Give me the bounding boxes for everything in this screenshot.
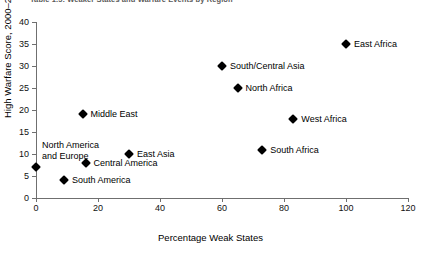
y-tick-mark bbox=[32, 88, 36, 89]
y-tick-label: 40 bbox=[19, 18, 29, 27]
x-tick-label: 100 bbox=[338, 204, 353, 213]
x-tick-mark bbox=[346, 198, 347, 202]
y-tick-label: 15 bbox=[19, 128, 29, 137]
data-point-marker bbox=[288, 114, 298, 124]
y-tick-mark bbox=[32, 132, 36, 133]
x-tick-label: 40 bbox=[155, 204, 165, 213]
data-point-label: South America bbox=[72, 175, 131, 186]
x-tick-mark bbox=[284, 198, 285, 202]
y-tick-mark bbox=[32, 110, 36, 111]
y-tick-mark bbox=[32, 176, 36, 177]
y-tick-mark bbox=[32, 44, 36, 45]
y-tick-label: 30 bbox=[19, 62, 29, 71]
x-axis-title: Percentage Weak States bbox=[0, 232, 421, 243]
data-point-marker bbox=[217, 61, 227, 71]
data-point-marker bbox=[257, 145, 267, 155]
data-point-marker bbox=[341, 39, 351, 49]
chart-figure: Table 1.5: Weaker States and Warfare Eve… bbox=[0, 0, 421, 253]
data-point-label: South/Central Asia bbox=[230, 61, 305, 72]
plot-area: 0510152025303540020406080100120 East Afr… bbox=[36, 22, 408, 198]
x-tick-mark bbox=[408, 198, 409, 202]
y-tick-mark bbox=[32, 22, 36, 23]
y-tick-label: 5 bbox=[24, 172, 29, 181]
y-tick-label: 20 bbox=[19, 106, 29, 115]
x-tick-mark bbox=[98, 198, 99, 202]
y-tick-mark bbox=[32, 154, 36, 155]
x-tick-mark bbox=[36, 198, 37, 202]
y-tick-label: 35 bbox=[19, 40, 29, 49]
x-tick-label: 80 bbox=[279, 204, 289, 213]
y-tick-label: 10 bbox=[19, 150, 29, 159]
data-point-label: South Africa bbox=[270, 144, 319, 155]
figure-caption: Table 1.5: Weaker States and Warfare Eve… bbox=[30, 0, 233, 4]
y-tick-mark bbox=[32, 66, 36, 67]
x-tick-mark bbox=[160, 198, 161, 202]
data-point-label: West Africa bbox=[301, 114, 346, 125]
x-tick-label: 0 bbox=[33, 204, 38, 213]
data-point-label: Middle East bbox=[91, 109, 138, 120]
data-point-label: North Africa bbox=[246, 83, 293, 94]
data-point-marker bbox=[78, 109, 88, 119]
x-tick-label: 60 bbox=[217, 204, 227, 213]
y-tick-label: 25 bbox=[19, 84, 29, 93]
x-tick-mark bbox=[222, 198, 223, 202]
y-axis-title: High Warfare Score, 2000–2005 bbox=[2, 0, 13, 118]
data-point-label: East Africa bbox=[354, 39, 397, 50]
x-tick-label: 20 bbox=[93, 204, 103, 213]
x-tick-label: 120 bbox=[400, 204, 415, 213]
y-tick-label: 0 bbox=[24, 194, 29, 203]
data-point-label: North America and Europe bbox=[42, 140, 112, 161]
data-point-marker bbox=[59, 175, 69, 185]
data-point-marker bbox=[31, 162, 41, 172]
data-point-marker bbox=[233, 83, 243, 93]
